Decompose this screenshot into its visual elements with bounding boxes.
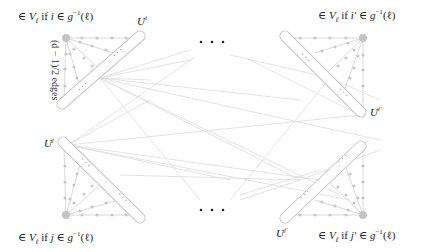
label-part: V [329, 229, 336, 241]
label-part: i′ [378, 105, 381, 113]
label-part: V [29, 10, 36, 22]
label-part: (ℓ) [80, 231, 93, 243]
label-part: −1 [375, 8, 382, 16]
set-label-top-left: Ui [137, 15, 147, 27]
set-label-bottom-right: Uj′ [276, 227, 287, 239]
membership-label-bottom-right: ∈ Vℓ if j′ ∈ g−1(ℓ) [318, 229, 395, 244]
apex-node [62, 211, 70, 219]
cluster-bottom-right: · · · · · · [285, 146, 367, 219]
label-part: (ℓ) [383, 229, 396, 241]
label-part: ∈ [356, 229, 370, 241]
label-part: j [52, 136, 54, 144]
apex-node [359, 211, 367, 219]
label-part: ∈ [356, 9, 370, 21]
membership-label-top-left: ∈ Vℓ if i ∈ g−1(ℓ) [18, 10, 93, 25]
edge-count-annotation: (d − 1)/2 edges [50, 40, 61, 100]
label-part: if [339, 9, 351, 21]
label-part: U [137, 15, 145, 27]
label-part: ∈ [18, 231, 29, 243]
label-part: if [39, 10, 51, 22]
label-part: (ℓ) [383, 9, 396, 21]
label-part: V [29, 231, 36, 243]
label-part: V [329, 9, 336, 21]
ellipsis-marks [200, 41, 225, 212]
label-part: ∈ [318, 9, 329, 21]
diagram-canvas: · · · · · · · · · · · · [0, 0, 430, 252]
label-part: if [339, 229, 351, 241]
label-part: −1 [375, 228, 382, 236]
label-part: i [145, 14, 147, 22]
label-part: U [276, 227, 284, 239]
label-part: ∈ [18, 10, 29, 22]
label-part: U [44, 137, 52, 149]
membership-label-bottom-left: ∈ Vℓ if j ∈ g−1(ℓ) [18, 231, 93, 246]
apex-node [359, 34, 367, 42]
label-part: ∈ [54, 231, 68, 243]
cluster-top-right: · · · · · · [285, 34, 367, 112]
set-label-top-right: Ui′ [370, 106, 381, 118]
membership-label-top-right: ∈ Vℓ if i′ ∈ g−1(ℓ) [318, 9, 395, 24]
label-part: ∈ [54, 10, 68, 22]
label-part: U [370, 106, 378, 118]
set-label-bottom-left: Uj [44, 137, 54, 149]
apex-node [62, 34, 70, 42]
label-part: (ℓ) [80, 10, 93, 22]
label-part: if [39, 231, 51, 243]
label-part: j′ [284, 226, 287, 234]
label-part: ∈ [318, 229, 329, 241]
